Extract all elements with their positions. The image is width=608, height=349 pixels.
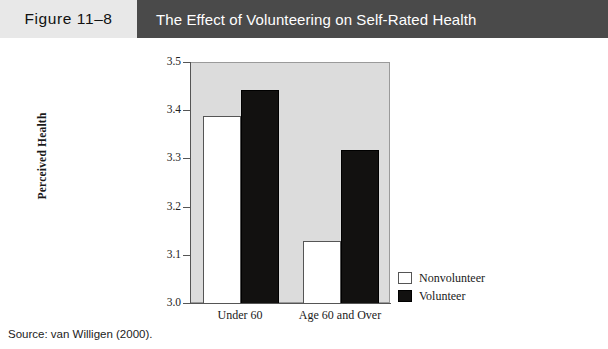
source-note: Source: van Willigen (2000). xyxy=(8,328,152,340)
y-axis-tick-label: 3.2 xyxy=(147,201,181,213)
legend-label-volunteer: Volunteer xyxy=(419,289,465,304)
bar-nonvolunteer-age-60-and-over xyxy=(303,241,341,304)
chart-legend: NonvolunteerVolunteer xyxy=(398,270,528,306)
bar-volunteer-age-60-and-over xyxy=(341,150,379,304)
x-axis-line xyxy=(190,303,391,304)
plot-area xyxy=(190,62,390,303)
y-axis-tick xyxy=(183,110,190,111)
y-axis-title: Perceived Health xyxy=(36,96,48,216)
y-axis-tick xyxy=(183,62,190,63)
legend-swatch-volunteer xyxy=(398,290,412,302)
legend-swatch-nonvolunteer xyxy=(398,272,412,284)
legend-label-nonvolunteer: Nonvolunteer xyxy=(419,271,485,286)
figure-title-text: The Effect of Volunteering on Self-Rated… xyxy=(137,11,476,28)
y-axis-tick xyxy=(183,158,190,159)
legend-item-nonvolunteer: Nonvolunteer xyxy=(398,270,528,286)
y-axis-tick xyxy=(183,255,190,256)
x-axis-label-under-60: Under 60 xyxy=(190,308,290,323)
y-axis-tick-label: 3.4 xyxy=(147,104,181,116)
figure-number-text: Figure 11–8 xyxy=(24,10,112,28)
figure-title-box: The Effect of Volunteering on Self-Rated… xyxy=(137,0,608,38)
chart-figure-area: Perceived Health 3.03.13.23.33.43.5 Unde… xyxy=(0,38,608,320)
y-axis-line xyxy=(190,62,191,304)
x-axis-label-age-60-and-over: Age 60 and Over xyxy=(290,308,390,323)
y-axis-tick-label: 3.1 xyxy=(147,249,181,261)
bar-volunteer-under-60 xyxy=(241,90,279,304)
figure-number-box: Figure 11–8 xyxy=(0,0,137,38)
y-axis-tick-label: 3.3 xyxy=(147,152,181,164)
y-axis-tick xyxy=(183,303,190,304)
bar-nonvolunteer-under-60 xyxy=(203,116,241,304)
y-axis-tick-label: 3.5 xyxy=(147,56,181,68)
y-axis-tick-label: 3.0 xyxy=(147,297,181,309)
y-axis-tick-labels: 3.03.13.23.33.43.5 xyxy=(143,38,181,320)
legend-item-volunteer: Volunteer xyxy=(398,288,528,304)
figure-header-band: Figure 11–8 The Effect of Volunteering o… xyxy=(0,0,608,38)
y-axis-tick xyxy=(183,207,190,208)
